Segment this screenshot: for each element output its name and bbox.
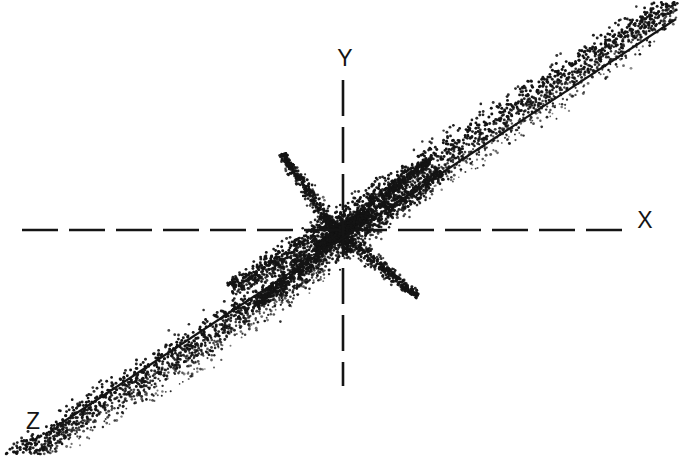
plot-canvas: X Y Z <box>0 0 680 456</box>
scatter-figure: X Y Z <box>0 0 680 456</box>
x-axis-label: X <box>637 207 652 233</box>
z-axis-label: Z <box>26 408 40 434</box>
y-axis-label: Y <box>337 45 352 71</box>
